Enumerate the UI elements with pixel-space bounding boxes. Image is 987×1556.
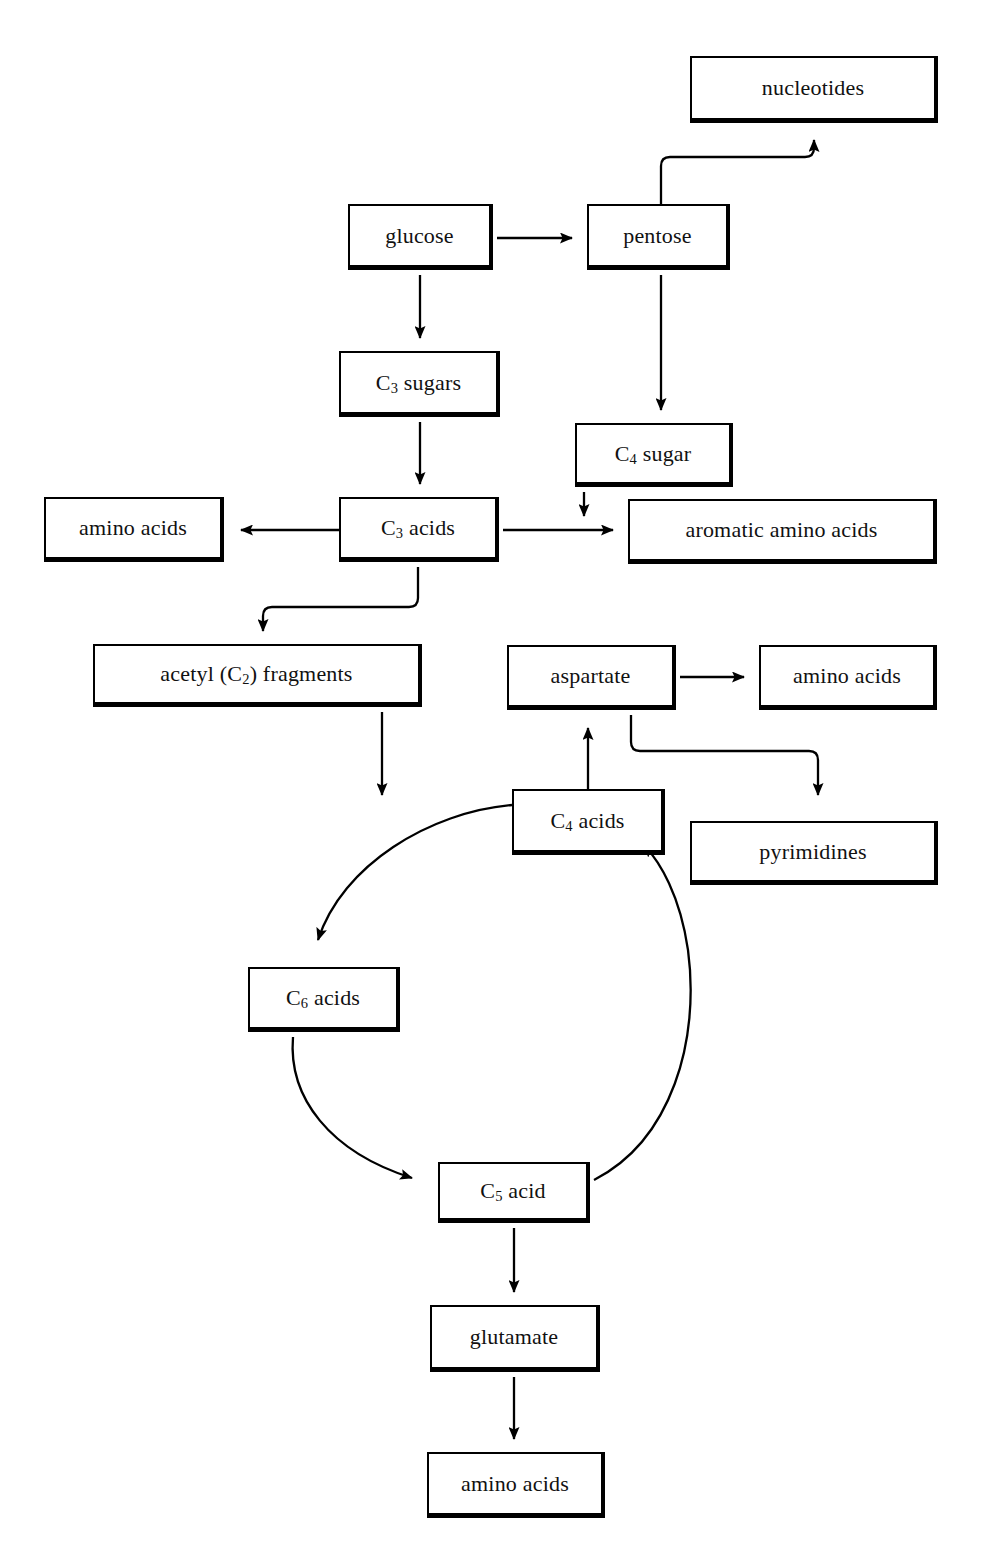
pathway-diagram-canvas: nucleotides glucose pentose C3 sugars C4… [0,0,987,1556]
node-pentose[interactable]: pentose [587,204,730,270]
node-c4-sugar[interactable]: C4 sugar [575,423,733,487]
edge-pentose-to-nucleotides [661,140,814,204]
node-c5-acid[interactable]: C5 acid [438,1162,590,1223]
node-c3-acids[interactable]: C3 acids [339,497,499,562]
node-label-aromatic-amino-acids: aromatic amino acids [685,519,877,541]
edge-c5acid-to-c4acids [594,845,691,1180]
node-label-c3-sugars: C3 sugars [376,372,461,394]
node-pyrimidines[interactable]: pyrimidines [690,821,938,885]
node-amino-acids-left[interactable]: amino acids [44,497,224,562]
node-glutamate[interactable]: glutamate [430,1305,600,1372]
node-aromatic-amino-acids[interactable]: aromatic amino acids [628,499,937,564]
edge-c3acids-to-acetyl [263,567,418,631]
node-label-c3-acids: C3 acids [381,517,455,539]
node-label-c4-acids: C4 acids [550,810,624,832]
node-glucose[interactable]: glucose [348,204,493,270]
node-amino-acids-glutamate[interactable]: amino acids [427,1452,605,1518]
node-label-pentose: pentose [623,225,692,247]
node-label-amino-acids-left: amino acids [79,517,187,539]
node-label-acetyl-fragments: acetyl (C2) fragments [160,663,352,685]
node-c6-acids[interactable]: C6 acids [248,967,400,1032]
node-label-amino-acids-aspartate: amino acids [793,665,901,687]
node-label-pyrimidines: pyrimidines [759,841,866,863]
node-label-glucose: glucose [385,225,454,247]
node-label-c5-acid: C5 acid [480,1180,546,1202]
node-amino-acids-aspartate[interactable]: amino acids [759,645,937,710]
node-nucleotides[interactable]: nucleotides [690,56,938,123]
node-acetyl-fragments[interactable]: acetyl (C2) fragments [93,644,422,707]
node-c3-sugars[interactable]: C3 sugars [339,351,500,417]
node-label-c6-acids: C6 acids [286,987,360,1009]
edge-c4acids-to-c6acids [318,805,512,940]
edge-c6acids-to-c5acid [293,1037,412,1178]
node-label-c4-sugar: C4 sugar [615,443,692,465]
node-label-aspartate: aspartate [551,665,631,687]
node-label-amino-acids-glutamate: amino acids [461,1473,569,1495]
node-aspartate[interactable]: aspartate [507,645,676,710]
node-c4-acids[interactable]: C4 acids [512,789,665,855]
node-label-glutamate: glutamate [470,1326,559,1348]
edge-aspartate-to-pyrimidines [631,715,818,795]
node-label-nucleotides: nucleotides [762,77,864,99]
